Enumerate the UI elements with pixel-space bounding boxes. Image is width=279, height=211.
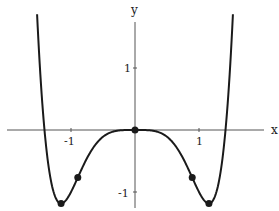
y-tick-label-neg1: -1 [118, 187, 129, 200]
marked-point [205, 200, 212, 207]
function-plot: -1 1 1 -1 x y [0, 0, 279, 211]
plot-canvas: -1 1 1 -1 x y [0, 0, 279, 211]
marked-point [189, 174, 196, 181]
y-tick-label-pos1: 1 [124, 62, 131, 75]
marked-point [132, 127, 139, 134]
marked-point [74, 174, 81, 181]
marked-point [58, 200, 65, 207]
x-tick-label-neg1: -1 [64, 135, 75, 148]
x-tick-label-pos1: 1 [196, 135, 203, 148]
x-axis-label: x [271, 123, 278, 137]
y-axis-label: y [130, 3, 138, 17]
